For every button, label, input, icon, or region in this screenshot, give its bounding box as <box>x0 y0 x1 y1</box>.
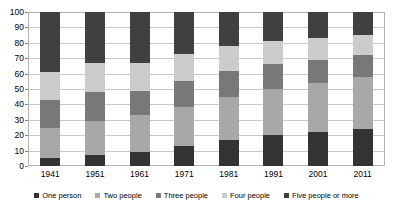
bar-segment <box>85 92 105 121</box>
y-tick-label: 70 <box>0 54 24 63</box>
x-tick-label: 1991 <box>251 168 296 182</box>
bar-group <box>117 12 162 166</box>
bar-stack-1941 <box>40 12 60 166</box>
bar-segment <box>130 63 150 91</box>
stacked-bar-chart: 1009080706050403020100 19411951196119711… <box>0 0 393 206</box>
bar-segment <box>85 155 105 166</box>
bar-segment <box>353 12 373 35</box>
y-tick-mark <box>25 166 28 167</box>
bar-segment <box>308 60 328 83</box>
bar-segment <box>174 81 194 107</box>
legend-swatch-icon <box>34 193 39 198</box>
x-tick-label: 1941 <box>28 168 73 182</box>
chart-legend: One personTwo peopleThree peopleFour peo… <box>0 188 393 202</box>
y-tick-label: 40 <box>0 100 24 109</box>
bar-segment <box>353 35 373 55</box>
bar-segment <box>308 12 328 38</box>
legend-label: Two people <box>103 191 141 200</box>
legend-item: Two people <box>95 191 141 200</box>
bar-segment <box>263 89 283 135</box>
bar-segment <box>40 158 60 166</box>
bar-stack-1961 <box>130 12 150 166</box>
x-tick-label: 1951 <box>73 168 118 182</box>
y-tick-label: 60 <box>0 69 24 78</box>
y-tick-label: 80 <box>0 38 24 47</box>
bar-segment <box>174 107 194 146</box>
bar-segment <box>353 55 373 77</box>
legend-swatch-icon <box>156 193 161 198</box>
x-axis: 19411951196119711981199120012011 <box>28 168 385 182</box>
y-tick-label: 10 <box>0 146 24 155</box>
y-tick-label: 100 <box>0 8 24 17</box>
bar-segment <box>174 54 194 82</box>
bar-stack-1971 <box>174 12 194 166</box>
bar-segment <box>40 128 60 159</box>
y-tick-label: 50 <box>0 85 24 94</box>
bar-stack-2011 <box>353 12 373 166</box>
bar-segment <box>308 83 328 132</box>
bar-group <box>340 12 385 166</box>
bar-segment <box>40 12 60 72</box>
legend-swatch-icon <box>95 193 100 198</box>
bar-segment <box>174 12 194 54</box>
bar-group <box>296 12 341 166</box>
x-tick-label: 2011 <box>340 168 385 182</box>
x-tick-label: 1971 <box>162 168 207 182</box>
y-axis: 1009080706050403020100 <box>0 12 24 166</box>
bar-segment <box>308 38 328 60</box>
bar-segment <box>219 12 239 46</box>
bar-group <box>207 12 252 166</box>
bar-stack-1951 <box>85 12 105 166</box>
bar-segment <box>219 140 239 166</box>
legend-swatch-icon <box>284 193 289 198</box>
y-tick-label: 0 <box>0 162 24 171</box>
legend-label: One person <box>42 191 81 200</box>
legend-item: Five people or more <box>284 191 359 200</box>
x-tick-label: 1961 <box>117 168 162 182</box>
bar-segment <box>263 64 283 89</box>
x-tick-label: 2001 <box>296 168 341 182</box>
legend-item: Three people <box>156 191 208 200</box>
bar-segment <box>40 100 60 128</box>
legend-item: Four people <box>222 191 270 200</box>
bar-segment <box>85 121 105 155</box>
bar-segment <box>263 135 283 166</box>
bar-segment <box>353 129 373 166</box>
bar-group <box>162 12 207 166</box>
bar-segment <box>130 12 150 63</box>
x-tick-label: 1981 <box>207 168 252 182</box>
bar-segment <box>219 71 239 97</box>
bar-segment <box>174 146 194 166</box>
bar-stack-2001 <box>308 12 328 166</box>
legend-label: Three people <box>164 191 208 200</box>
bar-segment <box>219 46 239 71</box>
bar-segment <box>353 77 373 129</box>
y-tick-label: 30 <box>0 115 24 124</box>
bar-group <box>28 12 73 166</box>
bar-segment <box>85 63 105 92</box>
bar-group <box>73 12 118 166</box>
bar-stack-1981 <box>219 12 239 166</box>
legend-label: Five people or more <box>292 191 359 200</box>
bars-layer <box>28 12 385 166</box>
bar-segment <box>130 115 150 152</box>
bar-segment <box>308 132 328 166</box>
bar-segment <box>130 152 150 166</box>
bar-segment <box>130 91 150 116</box>
bar-segment <box>40 72 60 100</box>
bar-segment <box>263 41 283 64</box>
legend-label: Four people <box>230 191 270 200</box>
y-tick-label: 90 <box>0 23 24 32</box>
bar-segment <box>263 12 283 41</box>
bar-segment <box>85 12 105 63</box>
legend-item: One person <box>34 191 81 200</box>
legend-swatch-icon <box>222 193 227 198</box>
y-tick-label: 20 <box>0 131 24 140</box>
bar-group <box>251 12 296 166</box>
bar-stack-1991 <box>263 12 283 166</box>
bar-segment <box>219 97 239 140</box>
